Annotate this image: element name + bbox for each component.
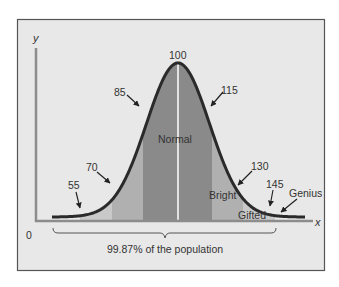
marker-145-label: 145 — [266, 178, 284, 190]
marker-100-label: 100 — [169, 49, 187, 61]
marker-70-label: 70 — [86, 161, 98, 173]
origin-label: 0 — [26, 229, 32, 241]
marker-55-label: 55 — [68, 179, 80, 191]
gifted-label: Gifted — [238, 209, 266, 221]
x-axis-label: x — [314, 216, 321, 228]
normal-label: Normal — [158, 133, 192, 145]
marker-115-label: 115 — [221, 84, 238, 96]
population-bracket-label: 99.87% of the population — [107, 243, 223, 255]
iq-bell-curve-chart: y x 0 55 70 85 100 115 130 145 Genius No… — [0, 0, 339, 287]
bright-label: Bright — [209, 189, 237, 201]
marker-85-label: 85 — [114, 86, 126, 98]
marker-130-label: 130 — [251, 160, 269, 172]
genius-label: Genius — [289, 187, 322, 199]
